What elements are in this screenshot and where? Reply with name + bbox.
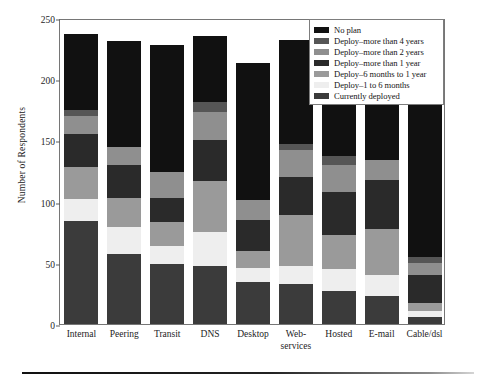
bar-segment[interactable]: [322, 156, 356, 165]
bar-segment[interactable]: [64, 116, 98, 134]
bar-segment[interactable]: [236, 200, 270, 220]
y-axis-tick-mark: [56, 142, 60, 143]
bar-segment[interactable]: [365, 296, 399, 324]
figure: Number of Respondents 050100150200250 In…: [0, 0, 483, 382]
bar-segment[interactable]: [150, 264, 184, 324]
bar-segment[interactable]: [408, 263, 442, 275]
bar-segment[interactable]: [64, 110, 98, 116]
bar-segment[interactable]: [279, 144, 313, 150]
legend-swatch-icon: [314, 82, 329, 88]
bar-segment[interactable]: [150, 222, 184, 245]
bar-segment[interactable]: [236, 268, 270, 283]
legend-swatch-icon: [314, 60, 329, 66]
legend-swatch-icon: [314, 93, 329, 99]
bar-segment[interactable]: [408, 303, 442, 310]
bar-segment[interactable]: [236, 282, 270, 324]
bar-segment[interactable]: [107, 198, 141, 227]
bar-segment[interactable]: [279, 284, 313, 324]
footer-rule: [22, 372, 474, 374]
bar-column[interactable]: [279, 18, 313, 324]
legend-swatch-icon: [314, 27, 329, 33]
bar-segment[interactable]: [408, 311, 442, 317]
bar-segment[interactable]: [193, 102, 227, 112]
bar-column[interactable]: [107, 18, 141, 324]
bar-segment[interactable]: [322, 291, 356, 324]
bar-segment[interactable]: [236, 251, 270, 268]
bar-segment[interactable]: [64, 134, 98, 167]
bar-segment[interactable]: [279, 266, 313, 283]
legend-item[interactable]: Deploy–1 to 6 months: [314, 79, 439, 90]
bar-column[interactable]: [193, 18, 227, 324]
legend-item[interactable]: Deploy–more than 1 year: [314, 57, 439, 68]
y-axis-tick-mark: [56, 326, 60, 327]
bar-segment[interactable]: [408, 317, 442, 324]
legend-item[interactable]: Deploy–6 months to 1 year: [314, 68, 439, 79]
bar-segment[interactable]: [193, 36, 227, 102]
bar-segment[interactable]: [150, 172, 184, 198]
bar-segment[interactable]: [107, 254, 141, 324]
bar-segment[interactable]: [107, 165, 141, 198]
bar-segment[interactable]: [279, 40, 313, 144]
legend-label: Deploy–more than 4 years: [334, 36, 424, 46]
bar-segment[interactable]: [193, 181, 227, 232]
bar-segment[interactable]: [236, 63, 270, 200]
bar-column[interactable]: [64, 18, 98, 324]
bar-segment[interactable]: [322, 235, 356, 269]
bar-segment[interactable]: [408, 275, 442, 303]
bar-segment[interactable]: [193, 112, 227, 140]
chart-legend: No planDeploy–more than 4 yearsDeploy–mo…: [309, 19, 444, 105]
bar-segment[interactable]: [279, 215, 313, 266]
x-axis-tick-label: Web- services: [274, 328, 317, 352]
bar-segment[interactable]: [64, 199, 98, 221]
bar-segment[interactable]: [322, 269, 356, 291]
bar-segment[interactable]: [150, 246, 184, 264]
x-axis-tick-label: Hosted: [317, 328, 360, 340]
bar-segment[interactable]: [64, 221, 98, 324]
bar-segment[interactable]: [107, 147, 141, 165]
x-axis-tick-label: Desktop: [232, 328, 275, 340]
legend-swatch-icon: [314, 71, 329, 77]
legend-label: Deploy–more than 2 years: [334, 47, 424, 57]
x-axis-tick-label: Cable/dsl: [403, 328, 446, 340]
x-axis-tick-label: Internal: [60, 328, 103, 340]
x-axis-tick-label: Transit: [146, 328, 189, 340]
y-axis-tick-mark: [56, 264, 60, 265]
bar-column[interactable]: [236, 18, 270, 324]
legend-swatch-icon: [314, 49, 329, 55]
x-axis-tick-label: E-mail: [360, 328, 403, 340]
y-axis-title: Number of Respondents: [17, 55, 27, 255]
bar-segment[interactable]: [107, 227, 141, 254]
legend-swatch-icon: [314, 38, 329, 44]
legend-label: Currently deployed: [334, 91, 400, 101]
bar-column[interactable]: [150, 18, 184, 324]
legend-item[interactable]: Deploy–more than 2 years: [314, 46, 439, 57]
bar-segment[interactable]: [150, 45, 184, 172]
y-axis-tick-mark: [56, 203, 60, 204]
legend-label: No plan: [334, 25, 361, 35]
bar-segment[interactable]: [365, 275, 399, 296]
legend-label: Deploy–1 to 6 months: [334, 80, 410, 90]
bar-segment[interactable]: [322, 192, 356, 235]
y-axis-tick-mark: [56, 20, 60, 21]
bar-segment[interactable]: [365, 180, 399, 229]
bar-segment[interactable]: [279, 177, 313, 215]
bar-segment[interactable]: [64, 34, 98, 110]
bar-segment[interactable]: [322, 165, 356, 192]
bar-segment[interactable]: [365, 229, 399, 276]
legend-item[interactable]: Deploy–more than 4 years: [314, 35, 439, 46]
x-axis-tick-label: Peering: [103, 328, 146, 340]
x-axis-tick-label: DNS: [189, 328, 232, 340]
legend-label: Deploy–more than 1 year: [334, 58, 420, 68]
bar-segment[interactable]: [107, 41, 141, 146]
bar-segment[interactable]: [408, 257, 442, 263]
bar-segment[interactable]: [279, 150, 313, 177]
bar-segment[interactable]: [150, 198, 184, 222]
bar-segment[interactable]: [193, 140, 227, 180]
bar-segment[interactable]: [64, 167, 98, 199]
bar-segment[interactable]: [236, 220, 270, 251]
legend-item[interactable]: Currently deployed: [314, 90, 439, 101]
bar-segment[interactable]: [365, 160, 399, 180]
bar-segment[interactable]: [193, 266, 227, 324]
bar-segment[interactable]: [193, 232, 227, 266]
legend-item[interactable]: No plan: [314, 24, 439, 35]
